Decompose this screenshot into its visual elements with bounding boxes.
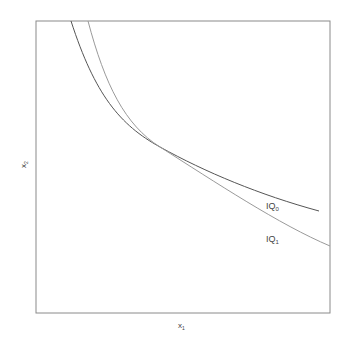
isoquant-curve-iq0 — [71, 21, 319, 211]
curve-label-iq1: IQ1 — [266, 234, 280, 245]
curve-label-iq0: IQ0 — [266, 201, 280, 212]
y-axis-label: x2 — [19, 161, 29, 168]
plot-frame — [36, 21, 330, 313]
x-axis-label: x1 — [178, 321, 185, 331]
isoquant-curve-iq1 — [88, 21, 330, 246]
isoquant-diagram: IQ0 IQ1 x1 x2 — [0, 0, 349, 349]
